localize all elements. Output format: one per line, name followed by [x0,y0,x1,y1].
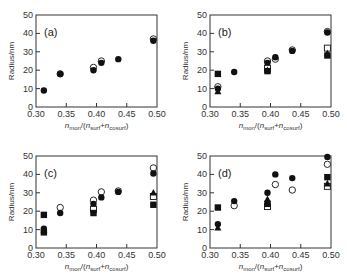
open-circle-marker [57,204,63,210]
x-tick-label: 0.45 [292,109,310,119]
x-tick-label: 0.35 [231,109,249,119]
y-tick-label: 20 [197,206,207,216]
filled-circle-marker [272,171,278,177]
x-tick-label: 0.50 [148,250,166,260]
y-tick-label: 50 [23,151,33,161]
y-tick-label: 30 [197,47,207,57]
filled-circle-marker [41,87,47,93]
x-tick-label: 0.35 [231,250,249,260]
y-axis-title: Radius/nm [181,183,190,222]
y-tick-label: 20 [23,65,33,75]
open-circle-marker [289,187,295,193]
open-circle-marker [98,189,104,195]
y-tick-label: 10 [23,84,33,94]
y-tick-label: 20 [197,65,207,75]
x-tick-label: 0.50 [322,109,340,119]
filled-circle-marker [231,198,237,204]
x-tick-label: 0.35 [57,109,75,119]
filled-circle-marker [231,69,237,75]
x-tick-label: 0.30 [27,250,45,260]
filled-circle-marker [264,190,270,196]
y-axis-title: Radius/nm [7,42,16,81]
x-tick-label: 0.45 [118,109,136,119]
filled-circle-marker [98,60,104,66]
panel-label: (c) [44,167,57,179]
x-axis-title: nmon/(nsurf+ncosurf) [65,262,129,272]
x-tick-label: 0.30 [201,109,219,119]
x-tick-label: 0.35 [57,250,75,260]
x-tick-label: 0.50 [322,250,340,260]
filled-circle-marker [289,175,295,181]
y-tick-label: 40 [23,28,33,38]
panel-b: 010203040500.300.350.400.450.50Radius/nm… [181,10,340,131]
x-tick-label: 0.40 [88,109,106,119]
filled-triangle-marker [264,195,271,202]
figure: 010203040500.300.350.400.450.50Radius/nm… [0,0,347,280]
y-tick-label: 40 [23,169,33,179]
filled-circle-marker [57,210,63,216]
panel-label: (a) [44,26,57,38]
filled-circle-marker [150,38,156,44]
y-axis-title: Radius/nm [7,183,16,222]
filled-square-marker [215,71,221,77]
filled-square-marker [215,204,221,210]
y-tick-label: 40 [197,28,207,38]
x-tick-label: 0.30 [201,250,219,260]
y-tick-label: 20 [23,206,33,216]
x-tick-label: 0.40 [262,250,280,260]
filled-square-marker [41,212,47,218]
panel-d: 010203040500.300.350.400.450.50Radius/nm… [181,151,340,272]
y-tick-label: 30 [23,188,33,198]
panel-label: (d) [218,167,231,179]
y-tick-label: 30 [197,188,207,198]
filled-square-marker [324,174,330,180]
filled-circle-marker [98,194,104,200]
panel-c: 010203040500.300.350.400.450.50Radius/nm… [7,151,166,272]
open-circle-marker [324,161,330,167]
panel-label: (b) [218,26,231,38]
filled-circle-marker [57,71,63,77]
y-axis-title: Radius/nm [181,42,190,81]
x-tick-label: 0.45 [292,250,310,260]
filled-circle-marker [324,154,330,160]
y-tick-label: 30 [23,47,33,57]
open-circle-marker [150,165,156,171]
filled-circle-marker [272,54,278,60]
panel-a: 010203040500.300.350.400.450.50Radius/nm… [7,10,166,131]
x-tick-label: 0.40 [88,250,106,260]
x-tick-label: 0.30 [27,109,45,119]
x-axis-title: nmon/(nsurf+ncosurf) [239,262,303,272]
x-axis-title: nmon/(nsurf+ncosurf) [239,121,303,131]
filled-square-marker [150,202,156,208]
filled-square-marker [90,210,96,216]
x-tick-label: 0.45 [118,250,136,260]
x-axis-title: nmon/(nsurf+ncosurf) [65,121,129,131]
y-tick-label: 10 [23,225,33,235]
y-tick-label: 40 [197,169,207,179]
filled-circle-marker [115,189,121,195]
filled-circle-marker [150,170,156,176]
y-tick-label: 50 [197,10,207,20]
y-tick-label: 10 [197,225,207,235]
filled-circle-marker [90,67,96,73]
y-tick-label: 50 [197,151,207,161]
filled-triangle-marker [150,189,157,196]
y-tick-label: 10 [197,84,207,94]
filled-circle-marker [324,29,330,35]
x-tick-label: 0.50 [148,109,166,119]
x-tick-label: 0.40 [262,109,280,119]
filled-circle-marker [115,56,121,62]
open-circle-marker [272,181,278,187]
filled-circle-marker [289,48,295,54]
y-tick-label: 50 [23,10,33,20]
